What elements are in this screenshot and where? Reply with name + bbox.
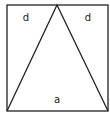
- diagram-canvas: d d a: [0, 0, 110, 118]
- label-right-region: d: [85, 12, 91, 23]
- label-triangle-region: a: [54, 94, 60, 105]
- label-left-region: d: [23, 12, 29, 23]
